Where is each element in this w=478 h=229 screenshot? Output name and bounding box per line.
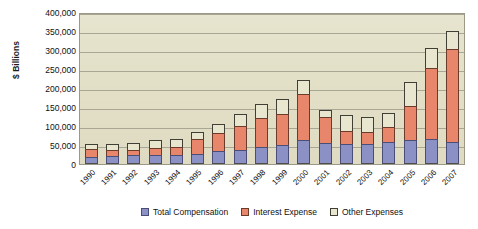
plot-area <box>79 13 465 165</box>
legend-item[interactable]: Other Expenses <box>330 207 403 217</box>
bar-column[interactable] <box>127 14 140 164</box>
bar-segment-other[interactable] <box>212 124 225 133</box>
bar-segment-comp[interactable] <box>255 147 268 164</box>
bar-segment-other[interactable] <box>404 82 417 106</box>
x-tick: 1993 <box>148 166 161 200</box>
bar-segment-other[interactable] <box>255 104 268 118</box>
bar-column[interactable] <box>106 14 119 164</box>
bar-segment-comp[interactable] <box>361 144 374 164</box>
bar-column[interactable] <box>170 14 183 164</box>
bar-column[interactable] <box>297 14 310 164</box>
x-tick: 1991 <box>105 166 118 200</box>
legend-label: Other Expenses <box>342 207 403 217</box>
y-tick-label: 400,000 <box>2 8 76 18</box>
bar-column[interactable] <box>276 14 289 164</box>
bar-segment-int[interactable] <box>191 139 204 154</box>
bar-segment-int[interactable] <box>446 49 459 142</box>
bar-segment-comp[interactable] <box>382 142 395 164</box>
bar-column[interactable] <box>319 14 332 164</box>
bar-column[interactable] <box>149 14 162 164</box>
bar-segment-int[interactable] <box>382 127 395 143</box>
bar-segment-other[interactable] <box>382 113 395 126</box>
bar-segment-comp[interactable] <box>319 143 332 164</box>
bar-segment-comp[interactable] <box>85 157 98 164</box>
bar-segment-int[interactable] <box>255 118 268 147</box>
bar-column[interactable] <box>234 14 247 164</box>
legend-item[interactable]: Interest Expense <box>241 207 317 217</box>
bar-segment-comp[interactable] <box>212 151 225 164</box>
bar-column[interactable] <box>85 14 98 164</box>
x-tick: 1995 <box>191 166 204 200</box>
x-tick-label: 1997 <box>227 168 246 187</box>
stacked-bar-chart: $ Billions 400,000350,000300,000250,0002… <box>0 0 478 229</box>
bar-segment-int[interactable] <box>170 147 183 155</box>
x-tick: 2001 <box>319 166 332 200</box>
bar-segment-comp[interactable] <box>297 140 310 164</box>
x-tick-label: 2006 <box>419 168 438 187</box>
x-tick: 2005 <box>404 166 417 200</box>
bar-segment-comp[interactable] <box>276 145 289 164</box>
x-tick-label: 1993 <box>142 168 161 187</box>
x-tick-label: 1998 <box>249 168 268 187</box>
bar-segment-comp[interactable] <box>106 156 119 164</box>
bar-segment-other[interactable] <box>319 110 332 118</box>
bar-segment-comp[interactable] <box>425 139 438 164</box>
bar-segment-int[interactable] <box>234 126 247 150</box>
bar-segment-other[interactable] <box>446 31 459 48</box>
x-tick-label: 1996 <box>206 168 225 187</box>
bar-segment-other[interactable] <box>340 115 353 131</box>
bar-segment-other[interactable] <box>234 114 247 125</box>
x-tick-label: 1995 <box>185 168 204 187</box>
x-tick: 2004 <box>383 166 396 200</box>
bar-segment-other[interactable] <box>170 139 183 147</box>
bar-column[interactable] <box>446 14 459 164</box>
x-tick-label: 2007 <box>441 168 460 187</box>
bar-column[interactable] <box>340 14 353 164</box>
bar-segment-other[interactable] <box>127 143 140 150</box>
bar-segment-comp[interactable] <box>170 155 183 164</box>
bar-segment-int[interactable] <box>425 68 438 139</box>
x-tick: 2000 <box>297 166 310 200</box>
bar-column[interactable] <box>191 14 204 164</box>
legend-label: Interest Expense <box>253 207 317 217</box>
bar-segment-comp[interactable] <box>340 144 353 164</box>
x-tick: 1994 <box>169 166 182 200</box>
bar-segment-other[interactable] <box>149 140 162 148</box>
bar-segment-other[interactable] <box>276 99 289 113</box>
bar-column[interactable] <box>361 14 374 164</box>
bar-segment-int[interactable] <box>319 117 332 143</box>
bar-segment-int[interactable] <box>361 132 374 144</box>
legend-item[interactable]: Total Compensation <box>141 207 228 217</box>
x-tick: 1996 <box>212 166 225 200</box>
bar-segment-comp[interactable] <box>446 142 459 164</box>
y-tick-label: 300,000 <box>2 46 76 56</box>
bar-segment-int[interactable] <box>212 133 225 151</box>
x-tick-label: 2001 <box>313 168 332 187</box>
x-tick-label: 1990 <box>78 168 97 187</box>
bar-column[interactable] <box>404 14 417 164</box>
bar-segment-other[interactable] <box>297 80 310 94</box>
bar-segment-other[interactable] <box>425 48 438 69</box>
bar-segment-comp[interactable] <box>234 150 247 164</box>
bar-segment-comp[interactable] <box>191 154 204 164</box>
x-tick-label: 1991 <box>99 168 118 187</box>
x-tick: 1997 <box>233 166 246 200</box>
bar-segment-int[interactable] <box>340 131 353 145</box>
bar-column[interactable] <box>212 14 225 164</box>
bar-column[interactable] <box>255 14 268 164</box>
bar-series-group <box>80 14 464 164</box>
bar-segment-int[interactable] <box>404 106 417 141</box>
bar-segment-comp[interactable] <box>404 140 417 164</box>
bar-segment-other[interactable] <box>191 132 204 139</box>
bar-segment-comp[interactable] <box>127 155 140 164</box>
bar-segment-comp[interactable] <box>149 155 162 164</box>
x-tick: 2003 <box>361 166 374 200</box>
chart-legend: Total CompensationInterest ExpenseOther … <box>79 207 465 217</box>
bar-segment-other[interactable] <box>361 117 374 131</box>
bar-column[interactable] <box>425 14 438 164</box>
bar-column[interactable] <box>382 14 395 164</box>
bar-segment-int[interactable] <box>297 94 310 140</box>
x-tick-label: 2002 <box>334 168 353 187</box>
bar-segment-int[interactable] <box>276 114 289 145</box>
bar-segment-int[interactable] <box>85 149 98 157</box>
